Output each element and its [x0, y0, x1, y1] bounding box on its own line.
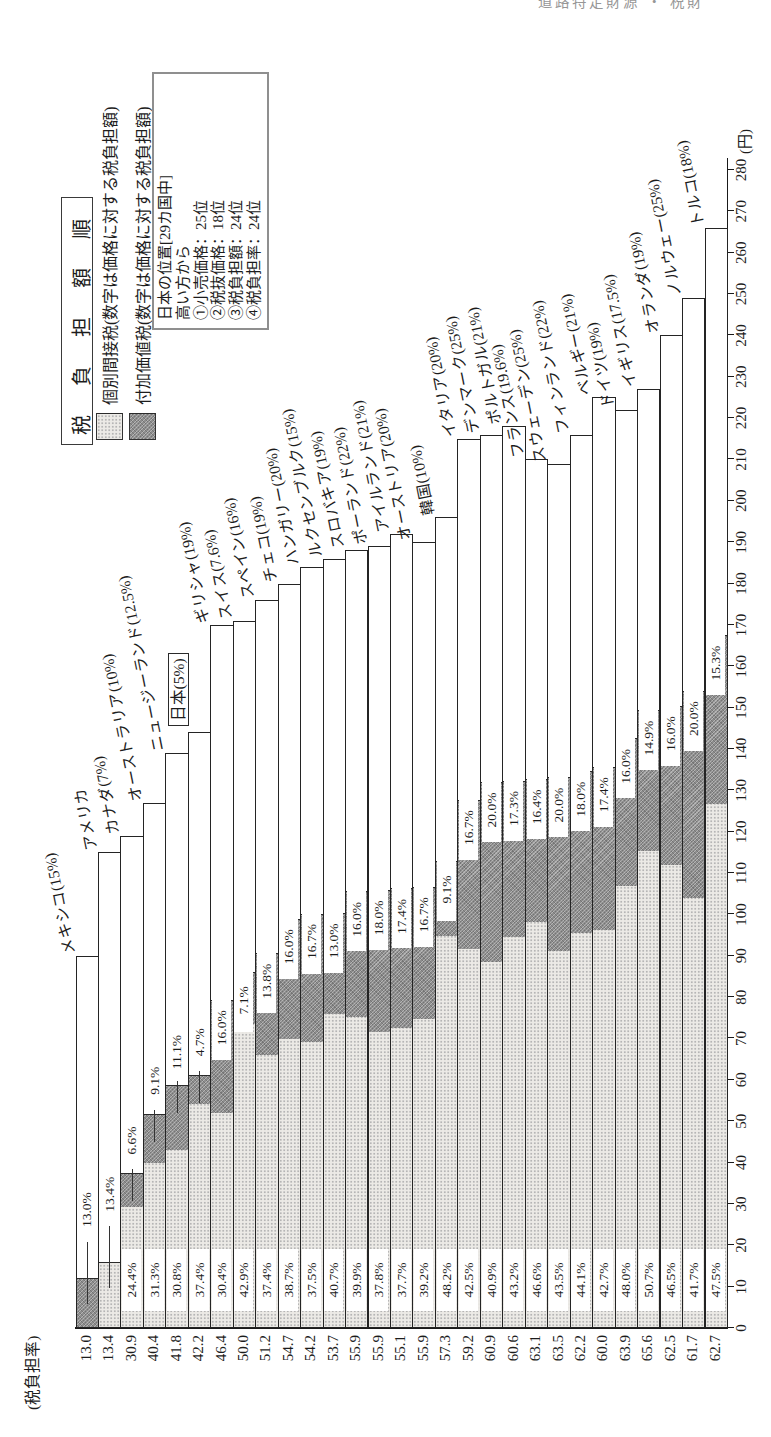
vat-pct-label: 16.0%	[616, 734, 635, 798]
vat-swatch	[129, 413, 156, 440]
axis-tick-label: 20	[733, 1223, 750, 1267]
indirect-pct-label: 42.9%	[234, 1249, 253, 1311]
vat-pct-label: 16.0%	[347, 887, 366, 951]
axis-tick-label: 190	[733, 520, 750, 564]
total-rate-value: 50.0	[235, 1335, 252, 1399]
indirect-pct-label: 37.4%	[190, 1249, 209, 1311]
bar-row-7	[210, 625, 233, 1328]
vat-pct-label: 13.8%	[257, 949, 276, 1013]
axis-tick-label: 60	[733, 1058, 750, 1102]
axis-tick-label: 270	[733, 189, 750, 233]
vat-pct-leader	[199, 1071, 200, 1103]
country-label: 日本(5%)	[168, 653, 189, 726]
axis-tick-label: 200	[733, 479, 750, 523]
bar-row-24	[592, 397, 615, 1328]
bar-row-20	[502, 426, 525, 1328]
indirect-pct-label: 31.3%	[145, 1249, 164, 1311]
total-rate-value: 63.5	[550, 1335, 567, 1399]
total-rate-value: 62.2	[572, 1335, 589, 1399]
vat-legend-label: 付加価値税(数字は価格に対する税負担額)	[130, 106, 154, 405]
axis-tick-label: 240	[733, 313, 750, 357]
country-label: トルコ(18%)	[673, 139, 708, 228]
total-rate-value: 40.4	[145, 1335, 162, 1399]
total-rate-value: 55.9	[347, 1335, 364, 1399]
bar-row-25	[615, 410, 638, 1328]
total-rate-value: 13.0	[78, 1335, 95, 1399]
indirect-pct-label: 46.6%	[527, 1249, 546, 1311]
vat-pct-label: 6.6%	[122, 1111, 141, 1169]
country-label: 韓国(10%)	[406, 444, 438, 517]
axis-tick-label: 170	[733, 603, 750, 647]
total-rate-value: 54.2	[302, 1335, 319, 1399]
axis-tick-label: 80	[733, 975, 750, 1019]
axis-tick-label: 260	[733, 231, 750, 275]
vat-pct-label: 18.0%	[369, 886, 388, 950]
total-rate-value: 51.2	[257, 1335, 274, 1399]
total-rate-value: 53.7	[325, 1335, 342, 1399]
vat-pct-label: 13.0%	[324, 909, 343, 973]
vat-pct-leader	[154, 1110, 155, 1142]
info-line: 高い方から	[175, 82, 193, 320]
vat-pct-label: 14.9%	[639, 706, 658, 770]
page-header-text: 道路特定財源 ・ 税財	[538, 0, 704, 11]
indirect-pct-label: 40.9%	[482, 1249, 501, 1311]
indirect-pct-label: 42.5%	[459, 1249, 478, 1311]
info-line: ③税負担額：24位	[228, 82, 246, 320]
info-line: 日本の位置[29カ国中]	[157, 82, 175, 320]
axis-tick-label: 210	[733, 437, 750, 481]
indirect-pct-label: 41.7%	[684, 1249, 703, 1311]
indirect-pct-label: 13.4%	[100, 1162, 119, 1226]
indirect-pct-label: 24.4%	[122, 1249, 141, 1311]
axis-tick-label: 150	[733, 686, 750, 730]
vat-pct-label: 17.4%	[392, 884, 411, 948]
total-rate-value: 60.0	[594, 1335, 611, 1399]
axis-tick-label: 100	[733, 892, 750, 936]
country-label: メキシコ(15%)	[40, 851, 78, 955]
axis-tick-label: 40	[733, 1141, 750, 1185]
total-rate-value: 41.8	[168, 1335, 185, 1399]
axis-tick-label: 140	[733, 727, 750, 771]
chart-title: 税 負 担 額 順	[71, 207, 93, 435]
axis-tick-label: 160	[733, 644, 750, 688]
total-rate-value: 60.9	[482, 1335, 499, 1399]
indirect-pct-label: 46.5%	[661, 1249, 680, 1311]
bar-row-18	[457, 439, 480, 1328]
axis-tick-label: 280	[733, 148, 750, 192]
total-rate-value: 57.3	[437, 1335, 454, 1399]
total-rate-value: 63.9	[617, 1335, 634, 1399]
indirect-pct-label: 44.1%	[571, 1249, 590, 1311]
indirect-pct-label: 30.4%	[212, 1249, 231, 1311]
axis-tick-label: 180	[733, 562, 750, 606]
indirect-pct-label: 37.4%	[257, 1249, 276, 1311]
axis-tick-label: 90	[733, 934, 750, 978]
vat-pct-label: 9.1%	[145, 1052, 164, 1110]
axis-tick-label: 0	[733, 1306, 750, 1350]
indirect-pct-label: 43.5%	[549, 1249, 568, 1311]
total-rate-value: 62.5	[662, 1335, 679, 1399]
page-header-cropped: 道路特定財源 ・ 税財	[538, 0, 771, 11]
vat-pct-label: 17.4%	[594, 763, 613, 827]
vat-pct-label: 17.3%	[504, 777, 523, 841]
axis-tick-label: 50	[733, 1099, 750, 1143]
bar-row-28	[682, 298, 705, 1328]
total-rate-value: 60.6	[505, 1335, 522, 1399]
vat-pct-label: 16.7%	[302, 910, 321, 974]
axis-tick-label: 250	[733, 272, 750, 316]
vat-pct-label: 16.4%	[527, 775, 546, 839]
vat-pct-label: 13.0%	[77, 1178, 96, 1242]
vat-pct-label: 7.1%	[234, 968, 253, 1032]
indirect-pct-label: 39.9%	[347, 1249, 366, 1311]
indirect-pct-label: 38.7%	[279, 1249, 298, 1311]
vat-pct-label: 20.0%	[482, 778, 501, 842]
total-rate-value: 65.6	[639, 1335, 656, 1399]
vat-pct-label: 16.0%	[279, 915, 298, 979]
vat-pct-label: 18.0%	[571, 767, 590, 831]
axis-tick-label: 220	[733, 396, 750, 440]
indirect-pct-label: 50.7%	[639, 1249, 658, 1311]
rotated-chart-canvas: 税 負 担 額 順 個別間接税(数字は価格に対する税負担額) 付加価値税(数字は…	[0, 0, 771, 1437]
axis-tick-label: 110	[733, 851, 750, 895]
vat-pct-label: 16.7%	[414, 883, 433, 947]
indirect-pct-label: 42.7%	[594, 1249, 613, 1311]
vat-pct-label: 4.7%	[190, 1013, 209, 1071]
total-rate-value: 59.2	[460, 1335, 477, 1399]
